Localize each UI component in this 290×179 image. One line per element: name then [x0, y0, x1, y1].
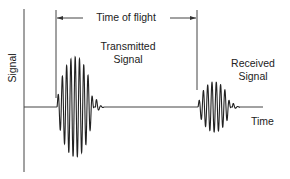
received-label-line1: Received: [231, 57, 275, 69]
tof-label: Time of flight: [96, 11, 156, 23]
arrow-left-icon: [57, 16, 63, 20]
transmitted-label-line1: Transmitted: [100, 40, 155, 52]
arrow-right-icon: [190, 16, 196, 20]
x-axis-label: Time: [251, 115, 274, 127]
time-of-flight-diagram: Time of flight Transmitted Signal Receiv…: [0, 0, 290, 179]
transmitted-signal-waveform: [57, 57, 104, 156]
received-label-line2: Signal: [238, 70, 267, 82]
y-axis-label: Signal: [6, 53, 18, 82]
received-signal-waveform: [198, 82, 240, 132]
transmitted-label-line2: Signal: [113, 53, 142, 65]
